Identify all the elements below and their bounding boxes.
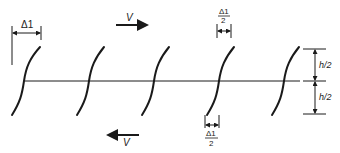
velocity-top-label: V	[126, 12, 134, 23]
delta-half-top-numerator: Δ1	[219, 7, 229, 16]
delta-half-bottom-numerator: Δ1	[206, 129, 216, 138]
delta-top-label: Δ1	[21, 19, 34, 30]
delta-dimension-top	[12, 26, 41, 65]
delta-half-bottom-denominator: 2	[209, 139, 214, 148]
diagram-svg: Δ1 V Δ1 2 Δ1 2 V	[0, 0, 340, 153]
h-half-bottom-label: h/2	[319, 92, 332, 102]
h-half-dimensions	[303, 49, 326, 114]
h-half-top-label: h/2	[319, 60, 332, 70]
delta-half-dimension-bottom	[205, 115, 219, 128]
diagram-canvas: Δ1 V Δ1 2 Δ1 2 V	[0, 0, 340, 153]
delta-half-top-denominator: 2	[221, 16, 226, 25]
velocity-bottom-label: V	[123, 137, 131, 148]
delta-half-dimension-top	[217, 24, 231, 38]
